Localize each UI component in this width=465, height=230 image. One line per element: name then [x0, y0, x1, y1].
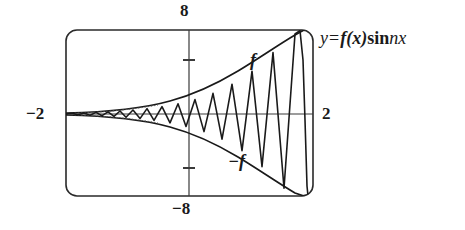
tick-label-bottom: −8 — [172, 200, 190, 217]
tick-label-top: 8 — [180, 2, 189, 19]
equation-equals: = — [328, 28, 340, 48]
figure-container: 8 −8 −2 2 f −f y=f(x)sinnx — [0, 0, 465, 230]
tick-label-right: 2 — [322, 105, 331, 122]
lower-envelope-label: −f — [228, 152, 245, 170]
equation-n: n — [389, 28, 398, 48]
tick-label-left: −2 — [26, 105, 44, 122]
equation-y: y — [320, 28, 328, 48]
equation-x: x — [398, 28, 406, 48]
equation-label: y=f(x)sinnx — [320, 29, 406, 47]
equation-fx: f(x) — [340, 28, 367, 48]
upper-envelope-label: f — [250, 51, 256, 69]
equation-sin: sin — [367, 28, 389, 48]
